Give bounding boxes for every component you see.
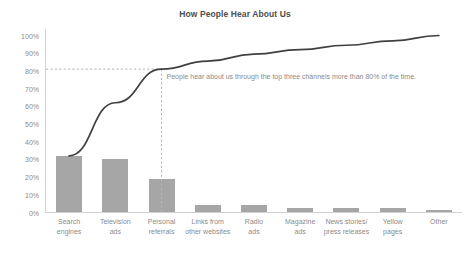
bar: [287, 208, 313, 212]
bar: [380, 208, 406, 212]
bar: [426, 210, 452, 213]
y-tick-label: 30%: [6, 156, 39, 163]
annotation-text: People hear about us through the top thr…: [167, 73, 416, 80]
y-tick-label: 70%: [6, 85, 39, 92]
y-tick-label: 80%: [6, 67, 39, 74]
y-tick-label: 100%: [6, 32, 39, 39]
bar: [149, 179, 175, 213]
y-tick-label: 90%: [6, 50, 39, 57]
x-tick-label: Other: [403, 217, 470, 227]
y-tick-label: 60%: [6, 103, 39, 110]
y-tick-label: 20%: [6, 174, 39, 181]
y-tick-label: 50%: [6, 121, 39, 128]
y-tick-label: 40%: [6, 138, 39, 145]
plot-area: [45, 28, 462, 213]
bar: [102, 159, 128, 212]
y-tick-label: 10%: [6, 191, 39, 198]
pareto-chart: How People Hear About Us 100%90%80%70%60…: [0, 0, 470, 253]
bar: [333, 208, 359, 212]
bar: [56, 156, 82, 213]
bar: [195, 205, 221, 213]
y-tick-label: 0%: [6, 209, 39, 216]
bar: [241, 205, 267, 212]
